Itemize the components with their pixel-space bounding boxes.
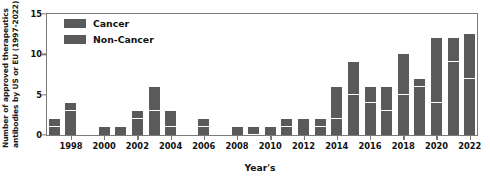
bar-segment-noncancer-2001: [115, 127, 126, 135]
x-tick-label: 2022: [453, 141, 487, 151]
legend-item-non-cancer: Non-Cancer: [64, 34, 154, 45]
bar-segment-noncancer-1998: [65, 111, 76, 135]
bar-segment-cancer-2018: [398, 54, 409, 94]
bar-segment-noncancer-2008: [232, 127, 243, 135]
x-tick-mark: [370, 136, 371, 140]
bar-segment-noncancer-2000: [99, 127, 110, 135]
y-tick-label: 0: [26, 130, 42, 140]
y-axis-title-line-1: Number of approved therapeutics: [1, 8, 10, 148]
legend-label-non-cancer: Non-Cancer: [93, 34, 154, 45]
x-tick-label: 2000: [87, 141, 121, 151]
bar-segment-noncancer-2020: [431, 103, 442, 135]
bar-segment-noncancer-2019: [414, 87, 425, 135]
bar-2001: [115, 127, 126, 135]
x-tick-label: 2006: [187, 141, 221, 151]
bar-2006: [198, 119, 209, 135]
bar-segment-cancer-2003: [149, 87, 160, 111]
bar-segment-cancer-2011: [281, 119, 292, 127]
x-tick-mark: [270, 136, 271, 140]
bar-segment-cancer-2013: [315, 119, 326, 127]
bar-2010: [265, 127, 276, 135]
bar-segment-noncancer-2014: [331, 119, 342, 135]
bar-segment-noncancer-2022: [464, 79, 475, 135]
bar-2021: [448, 38, 459, 135]
x-tick-mark: [137, 136, 138, 140]
x-tick-mark: [470, 136, 471, 140]
bar-1998: [65, 103, 76, 135]
legend-item-cancer: Cancer: [64, 18, 154, 29]
bar-2012: [298, 119, 309, 135]
y-tick-label: 10: [26, 49, 42, 59]
bar-segment-cancer-2022: [464, 34, 475, 78]
bar-segment-noncancer-2017: [381, 111, 392, 135]
bar-segment-noncancer-2002: [132, 119, 143, 135]
bar-2020: [431, 38, 442, 135]
x-tick-label: 2018: [386, 141, 420, 151]
bar-segment-cancer-2016: [365, 87, 376, 103]
x-tick-label: 2008: [220, 141, 254, 151]
bar-segment-noncancer-2006: [198, 127, 209, 135]
y-axis-title-line-2: antibodies by US or EU (1997-2022): [11, 1, 20, 148]
bar-segment-cancer-2004: [165, 111, 176, 127]
bar-segment-noncancer-2003: [149, 111, 160, 135]
bar-segment-cancer-2019: [414, 79, 425, 87]
bar-2000: [99, 127, 110, 135]
x-tick-mark: [71, 136, 72, 140]
bar-segment-noncancer-2021: [448, 62, 459, 135]
x-tick-label: 2020: [419, 141, 453, 151]
x-tick-mark: [104, 136, 105, 140]
y-tick-label: 15: [26, 9, 42, 19]
x-tick-mark: [171, 136, 172, 140]
bar-segment-noncancer-2011: [281, 127, 292, 135]
bar-2017: [381, 87, 392, 135]
x-axis-title: Year's: [0, 162, 490, 173]
bar-segment-noncancer-2012: [298, 119, 309, 135]
bar-segment-cancer-2009: [248, 127, 259, 135]
bar-segment-cancer-2006: [198, 119, 209, 127]
bar-segment-noncancer-2013: [315, 127, 326, 135]
bar-2002: [132, 111, 143, 135]
x-tick-label: 2012: [287, 141, 321, 151]
x-tick-label: 1998: [54, 141, 88, 151]
bar-segment-noncancer-2015: [348, 95, 359, 135]
bar-2016: [365, 87, 376, 135]
bar-segment-cancer-2015: [348, 62, 359, 94]
bar-segment-noncancer-2010: [265, 127, 276, 135]
x-tick-label: 2016: [353, 141, 387, 151]
x-tick-label: 2002: [120, 141, 154, 151]
y-tick-label: 5: [26, 90, 42, 100]
legend-swatch-non-cancer: [64, 35, 86, 44]
bar-2018: [398, 54, 409, 135]
bar-2013: [315, 119, 326, 135]
bar-2015: [348, 62, 359, 135]
x-tick-mark: [337, 136, 338, 140]
bar-segment-cancer-2020: [431, 38, 442, 103]
bar-1997: [49, 119, 60, 135]
legend-swatch-cancer: [64, 19, 86, 28]
bar-segment-noncancer-2018: [398, 95, 409, 135]
x-tick-mark: [436, 136, 437, 140]
legend-label-cancer: Cancer: [93, 18, 129, 29]
bar-segment-cancer-2017: [381, 87, 392, 111]
bar-2009: [248, 127, 259, 135]
x-tick-label: 2004: [154, 141, 188, 151]
bar-segment-cancer-2014: [331, 87, 342, 119]
x-tick-label: 2010: [253, 141, 287, 151]
bar-segment-noncancer-1997: [49, 127, 60, 135]
x-tick-label: 2014: [320, 141, 354, 151]
bar-2008: [232, 127, 243, 135]
bar-segment-noncancer-2016: [365, 103, 376, 135]
bar-segment-cancer-2021: [448, 38, 459, 62]
bar-2004: [165, 111, 176, 135]
bar-segment-noncancer-2004: [165, 127, 176, 135]
bar-chart-figure: Number of approved therapeutics antibodi…: [0, 0, 490, 186]
bar-segment-cancer-1997: [49, 119, 60, 127]
bar-2019: [414, 79, 425, 135]
x-tick-mark: [204, 136, 205, 140]
bar-2014: [331, 87, 342, 135]
bar-segment-cancer-2002: [132, 111, 143, 119]
chart-legend: CancerNon-Cancer: [64, 18, 154, 45]
bar-2011: [281, 119, 292, 135]
bar-2003: [149, 87, 160, 135]
x-tick-mark: [304, 136, 305, 140]
